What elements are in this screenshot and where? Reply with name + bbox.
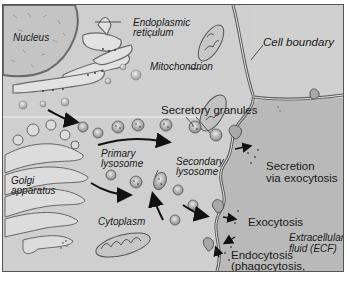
cell-diagram: Nucleus Endoplasmic reticulum Mitochondr…: [2, 4, 344, 272]
label-secretion-1: Secretion: [266, 160, 315, 172]
label-nucleus: Nucleus: [13, 33, 49, 43]
label-primary-lysosome-2: lysosome: [101, 159, 143, 169]
label-exocytosis: Exocytosis: [248, 216, 303, 228]
label-mitochondrion: Mitochondrion: [150, 62, 213, 72]
label-golgi-2: apparatus: [11, 186, 55, 196]
label-ecf-1: Extracellular: [289, 233, 344, 243]
label-cytoplasm: Cytoplasm: [98, 217, 145, 227]
label-ecf-2: fluid (ECF): [289, 244, 337, 254]
label-secretion-2: via exocytosis: [266, 172, 338, 184]
label-cell-boundary: Cell boundary: [263, 36, 334, 48]
label-er-line2: reticulum: [133, 28, 174, 38]
label-secretory-granules: Secretory granules: [161, 104, 258, 116]
label-endocytosis-3: pinocytosis): [234, 271, 295, 272]
label-secondary-lysosome-2: lysosome: [176, 167, 218, 177]
